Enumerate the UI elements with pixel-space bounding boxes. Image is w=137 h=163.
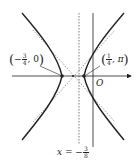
hyperbola-right-branch bbox=[84, 13, 124, 140]
close-paren: ) bbox=[39, 52, 44, 67]
right-vertex-dot bbox=[82, 74, 86, 78]
denominator: 8 bbox=[83, 153, 89, 159]
hyperbola-figure bbox=[0, 0, 137, 163]
coordinate-rest: , π bbox=[112, 54, 124, 64]
left-vertex-label: (−34, 0) bbox=[9, 53, 44, 66]
directrix-prefix: x = − bbox=[57, 147, 83, 157]
hyperbola-left-branch bbox=[22, 13, 62, 140]
fraction: 38 bbox=[83, 146, 89, 159]
right-vertex-label: (14, π) bbox=[101, 53, 129, 66]
origin-label: O bbox=[96, 79, 103, 88]
left-vertex-dot bbox=[60, 74, 64, 78]
coordinate-rest: , 0 bbox=[27, 54, 38, 64]
left-leader-line bbox=[40, 66, 60, 75]
directrix-label: x = −38 bbox=[57, 146, 89, 159]
sign: − bbox=[14, 54, 22, 64]
center-dot bbox=[72, 75, 74, 77]
close-paren: ) bbox=[124, 52, 129, 67]
